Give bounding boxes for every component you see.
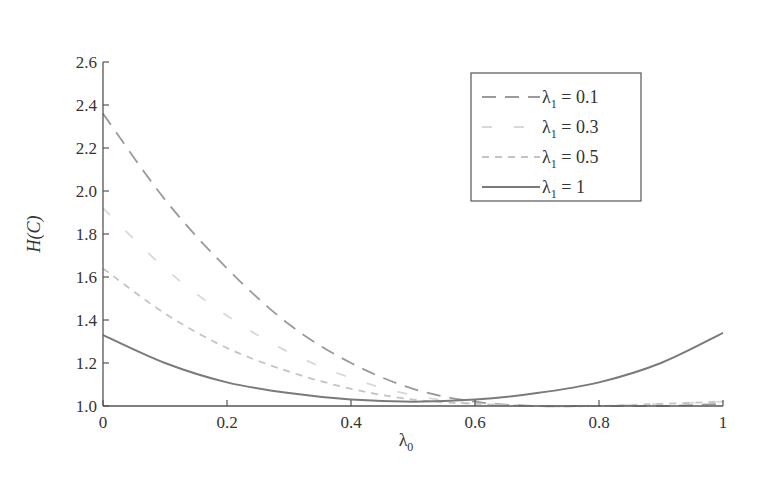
y-axis-title: H(C) — [24, 216, 45, 254]
x-tick-label: 0 — [99, 413, 108, 432]
x-tick-label: 0.6 — [464, 413, 485, 432]
series-line-3 — [103, 333, 723, 402]
x-axis-title: λ0 — [399, 430, 414, 454]
y-tick-label: 2.4 — [76, 96, 98, 115]
series-line-2 — [103, 268, 723, 406]
y-tick-label: 1.2 — [76, 354, 97, 373]
x-tick-label: 0.4 — [340, 413, 362, 432]
y-tick-label: 2.0 — [76, 182, 97, 201]
y-axis-ticks: 1.01.21.41.61.82.02.22.42.6 — [76, 53, 109, 416]
x-tick-label: 0.8 — [588, 413, 609, 432]
y-tick-label: 1.4 — [76, 311, 98, 330]
series-line-1 — [103, 208, 723, 406]
x-tick-label: 1 — [719, 413, 728, 432]
x-tick-label: 0.2 — [216, 413, 237, 432]
legend: λ1 = 0.1λ1 = 0.3λ1 = 0.5λ1 = 1 — [471, 73, 641, 201]
y-tick-label: 1.6 — [76, 268, 97, 287]
line-chart: 1.01.21.41.61.82.02.22.42.6 00.20.40.60.… — [0, 0, 766, 485]
y-tick-label: 2.2 — [76, 139, 97, 158]
y-tick-label: 1.0 — [76, 397, 97, 416]
y-tick-label: 1.8 — [76, 225, 97, 244]
y-tick-label: 2.6 — [76, 53, 97, 72]
